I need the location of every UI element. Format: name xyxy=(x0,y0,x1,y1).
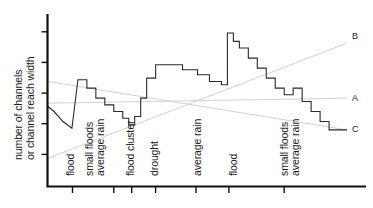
y-axis-label-line2: or channel reach width xyxy=(24,57,36,160)
series-label-a: A xyxy=(352,93,358,103)
y-axis-label-line1: number of channels xyxy=(12,70,24,160)
annotation-average-rain-3: average rain xyxy=(289,119,301,176)
annotation-flood-cluster: flood cluster xyxy=(124,121,136,176)
annotation-average-rain-1: average rain xyxy=(94,119,106,176)
step-series-group xyxy=(48,33,347,130)
annotation-flood-1: flood xyxy=(64,154,76,176)
series-label-c: C xyxy=(352,124,359,134)
plot-area xyxy=(0,0,373,208)
chart-figure: number of channels or channel reach widt… xyxy=(0,0,373,208)
annotation-flood-2: flood xyxy=(227,154,239,176)
annotation-drought: drought xyxy=(148,141,160,176)
series-label-b: B xyxy=(352,31,358,41)
annotation-average-rain-2: average rain xyxy=(191,119,203,176)
series-channel-response xyxy=(48,33,347,130)
